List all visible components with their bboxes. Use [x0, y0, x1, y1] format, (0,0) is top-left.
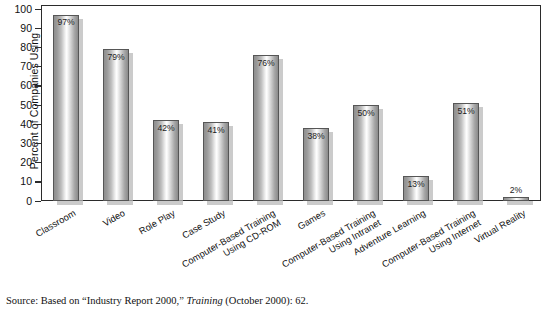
category-label-1: Video — [101, 208, 127, 230]
bar-value-label-3: 41% — [196, 125, 236, 135]
y-tick-label: 0 — [26, 194, 32, 208]
category-label-4: Computer-Based TrainingUsing CD-ROM — [180, 208, 283, 280]
y-tick-label: 10 — [20, 174, 32, 188]
y-tick-label: 100 — [14, 2, 32, 16]
y-tick-mark — [35, 181, 41, 182]
bar-shadow — [507, 201, 533, 205]
category-label-0: Classroom — [34, 208, 78, 240]
category-label-line1: Case Study — [180, 208, 227, 241]
category-label-8: Computer-Based TrainingUsing Internet — [380, 208, 483, 280]
bar-0 — [53, 15, 79, 201]
category-label-line1: Games — [296, 208, 327, 232]
y-tick-label: 30 — [20, 136, 32, 150]
y-tick-mark — [35, 143, 41, 144]
bar-value-label-5: 38% — [296, 131, 336, 141]
category-label-line1: Role Play — [137, 208, 176, 237]
y-tick-mark — [35, 85, 41, 86]
bar-6 — [353, 105, 379, 201]
source-note: Source: Based on “Industry Report 2000,”… — [6, 294, 308, 307]
category-label-line1: Classroom — [34, 208, 77, 239]
y-tick-label: 80 — [20, 40, 32, 54]
y-tick-label: 50 — [20, 98, 32, 112]
y-tick-mark — [35, 201, 41, 202]
bar-value-label-0: 97% — [46, 17, 86, 27]
bar-chart-figure: Percent of Companies Using 1009080706050… — [0, 0, 550, 314]
bar-value-label-8: 51% — [446, 106, 486, 116]
y-tick-label: 90 — [20, 21, 32, 35]
y-tick-mark — [35, 28, 41, 29]
y-tick-label: 40 — [20, 117, 32, 131]
bar-value-label-7: 13% — [396, 179, 436, 189]
y-tick-mark — [35, 47, 41, 48]
bar-8 — [453, 103, 479, 201]
category-label-5: Games — [296, 208, 328, 233]
source-publication: Training — [187, 295, 223, 306]
y-tick-mark — [35, 124, 41, 125]
y-tick-label: 70 — [20, 59, 32, 73]
y-tick-label: 60 — [20, 78, 32, 92]
bar-9 — [503, 197, 529, 201]
y-tick-mark — [35, 66, 41, 67]
bar-value-label-4: 76% — [246, 58, 286, 68]
y-tick-mark — [35, 162, 41, 163]
bar-4 — [253, 55, 279, 201]
bar-1 — [103, 49, 129, 201]
category-label-line1: Video — [101, 208, 126, 228]
y-tick-label: 20 — [20, 155, 32, 169]
source-prefix: Source: Based on “Industry Report 2000,” — [6, 295, 187, 306]
y-tick-mark — [35, 9, 41, 10]
bar-value-label-9: 2% — [496, 185, 536, 195]
source-suffix: (October 2000): 62. — [223, 295, 309, 306]
bar-value-label-2: 42% — [146, 123, 186, 133]
y-tick-mark — [35, 105, 41, 106]
bar-value-label-6: 50% — [346, 108, 386, 118]
bar-value-label-1: 79% — [96, 52, 136, 62]
category-label-2: Role Play — [137, 208, 177, 238]
